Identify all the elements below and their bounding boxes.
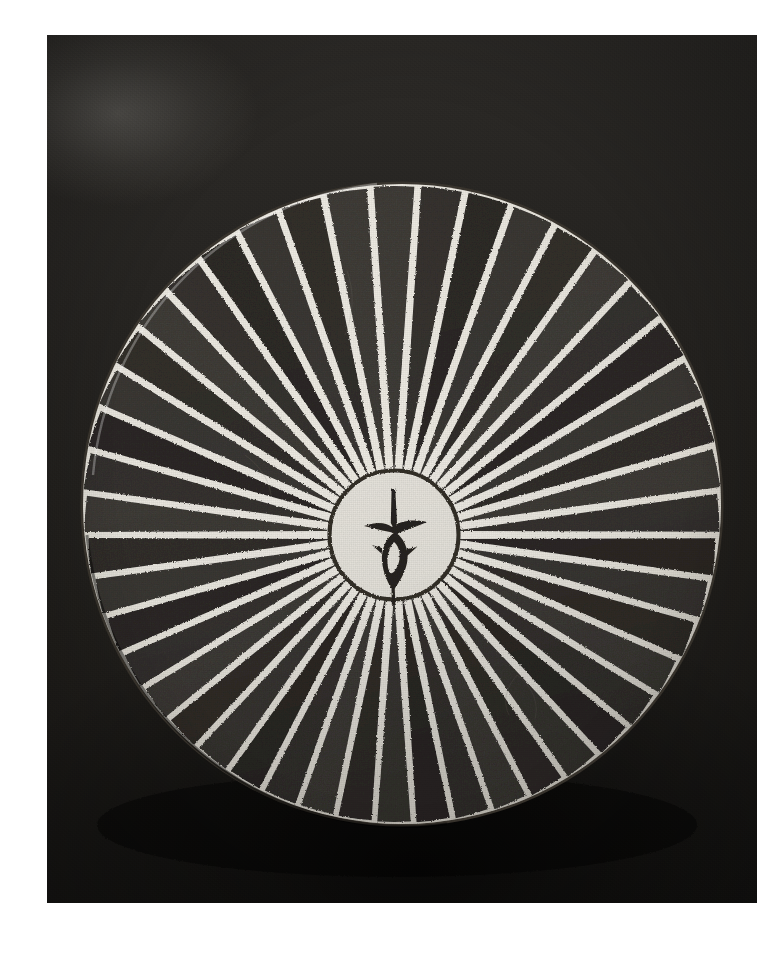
- bowl-illustration: [47, 35, 757, 903]
- page-root: [0, 0, 772, 953]
- bowl-object: [47, 35, 757, 903]
- bowl-inner-shading: [83, 184, 721, 824]
- photograph: [47, 35, 757, 903]
